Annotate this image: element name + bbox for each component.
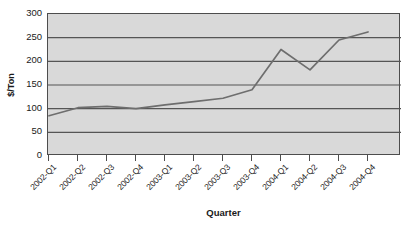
y-axis-tick-label: 100: [16, 103, 42, 113]
x-axis-ticks: [47, 155, 400, 162]
y-axis-tick-label: 50: [16, 126, 42, 136]
x-axis-tick-label: 2004-Q2: [289, 162, 319, 192]
x-axis-tick-label: 2003-Q1: [144, 162, 174, 192]
y-axis-tick-labels: 050100150200250300: [16, 0, 42, 227]
x-axis-tick: [193, 155, 194, 161]
y-axis-tick-label: 0: [16, 150, 42, 160]
y-axis-title-text: $/Ton: [6, 73, 16, 96]
x-axis-tick-label: 2002-Q2: [57, 162, 87, 192]
x-axis-tick: [251, 155, 252, 161]
line-chart: $/Ton 050100150200250300 2002-Q12002-Q22…: [0, 0, 413, 227]
data-series-line: [49, 32, 368, 116]
x-axis-tick-label: 2003-Q4: [231, 162, 261, 192]
y-axis-tick-label: 300: [16, 8, 42, 18]
x-axis-tick-label: 2003-Q2: [173, 162, 203, 192]
x-axis-tick: [106, 155, 107, 161]
y-axis-tick-label: 150: [16, 79, 42, 89]
x-axis-tick: [48, 155, 49, 161]
x-axis-tick-label: 2004-Q3: [318, 162, 348, 192]
y-axis-tick-label: 250: [16, 32, 42, 42]
x-axis-tick: [309, 155, 310, 161]
x-axis-tick: [280, 155, 281, 161]
plot-svg: [48, 14, 401, 156]
x-axis-tick-label: 2003-Q3: [202, 162, 232, 192]
x-axis-tick: [77, 155, 78, 161]
x-axis-tick-label: 2002-Q3: [86, 162, 116, 192]
gridlines: [48, 14, 401, 132]
x-axis-tick-label: 2004-Q1: [260, 162, 290, 192]
x-axis-tick-label: 2004-Q4: [347, 162, 377, 192]
x-axis-tick: [338, 155, 339, 161]
x-axis-tick: [164, 155, 165, 161]
x-axis-tick-labels: 2002-Q12002-Q22002-Q32002-Q42003-Q12003-…: [47, 162, 407, 207]
plot-area: [47, 13, 400, 155]
x-axis-tick-label: 2002-Q4: [115, 162, 145, 192]
x-axis-tick: [135, 155, 136, 161]
y-axis-tick-label: 200: [16, 55, 42, 65]
x-axis-tick: [222, 155, 223, 161]
x-axis-title: Quarter: [47, 207, 400, 218]
x-axis-tick: [367, 155, 368, 161]
